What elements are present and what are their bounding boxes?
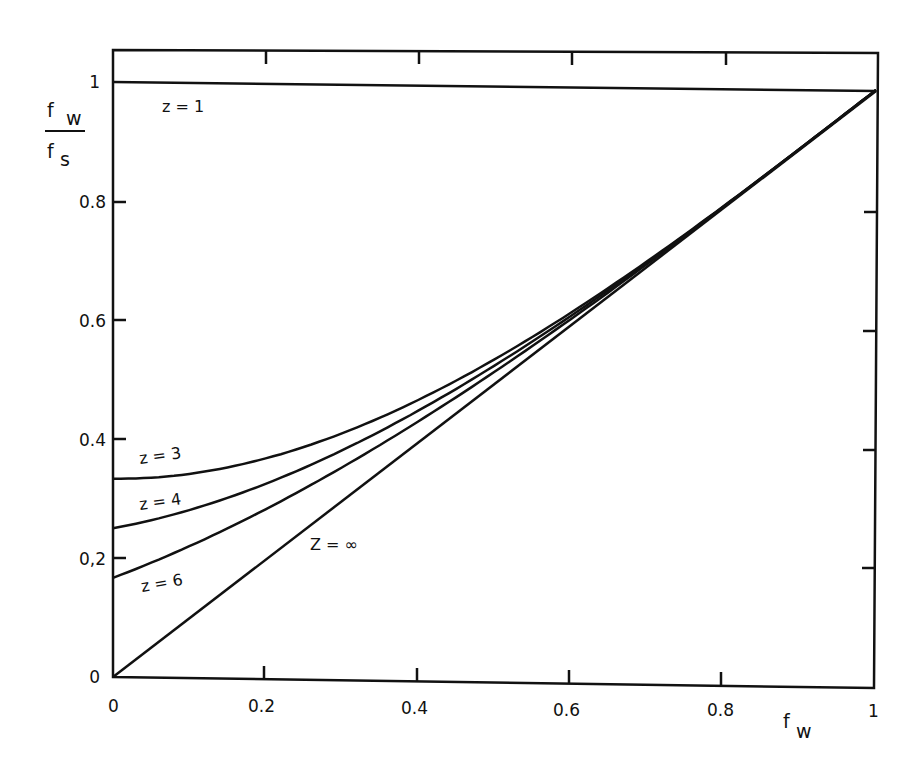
svg-text:s: s <box>60 148 70 170</box>
y-tick-labels: 0 0,2 0.4 0.6 0.8 1 <box>79 72 106 687</box>
svg-text:1: 1 <box>868 701 879 721</box>
curve-labels: z = 1 z = 3 z = 4 z = 6 Z = ∞ <box>138 97 358 596</box>
svg-text:0,2: 0,2 <box>79 549 106 569</box>
label-z-1: z = 1 <box>162 97 204 116</box>
x-axis-label: f w <box>783 710 812 742</box>
svg-text:w: w <box>796 720 812 742</box>
x-tick-labels: 0 0.2 0.4 0.6 0.8 1 <box>108 696 879 721</box>
curve-z-4 <box>113 90 876 528</box>
curve-z-1 <box>113 82 876 91</box>
svg-text:f: f <box>783 710 791 732</box>
curve-z-6 <box>113 90 876 578</box>
svg-text:0.2: 0.2 <box>248 696 275 716</box>
label-z-3: z = 3 <box>138 443 182 468</box>
svg-text:0.8: 0.8 <box>79 192 106 212</box>
label-z-inf: Z = ∞ <box>310 535 358 554</box>
curve-z-3 <box>113 90 876 479</box>
chart: 0 0.2 0.4 0.6 0.8 1 0 0,2 0.4 0.6 0.8 1 … <box>0 0 923 772</box>
svg-text:0: 0 <box>89 667 100 687</box>
svg-text:0.6: 0.6 <box>553 700 580 720</box>
svg-text:f: f <box>47 140 55 162</box>
svg-text:0.4: 0.4 <box>79 430 106 450</box>
y-ticks-left <box>113 202 126 558</box>
plot-frame <box>113 50 878 688</box>
svg-text:f: f <box>47 99 55 121</box>
y-axis-label: f w f s <box>45 99 85 170</box>
svg-text:0.8: 0.8 <box>707 700 734 720</box>
svg-text:0: 0 <box>108 696 119 716</box>
svg-text:0.4: 0.4 <box>401 698 428 718</box>
svg-text:1: 1 <box>89 72 100 92</box>
svg-text:0.6: 0.6 <box>79 311 106 331</box>
label-z-4: z = 4 <box>138 489 182 514</box>
svg-text:w: w <box>66 107 82 129</box>
label-z-6: z = 6 <box>139 570 184 596</box>
